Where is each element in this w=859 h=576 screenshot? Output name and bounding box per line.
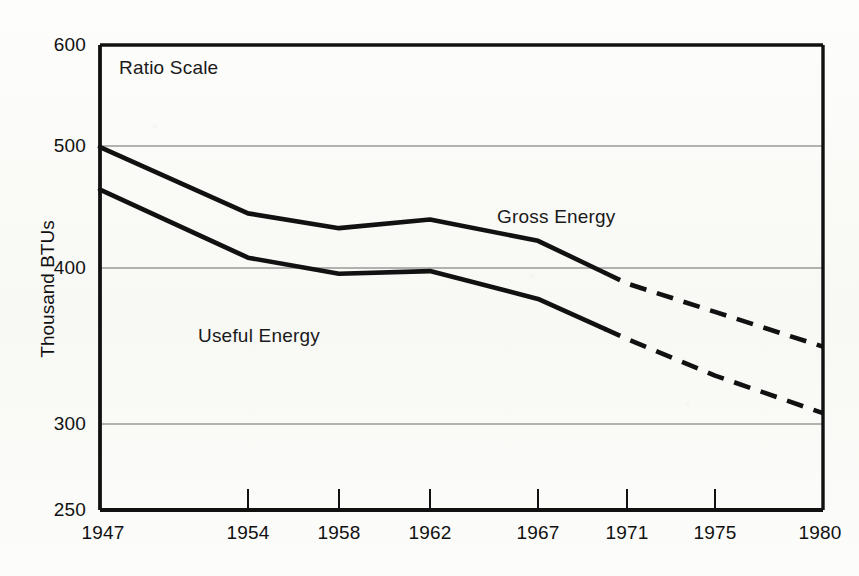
x-axis-ticks — [248, 489, 715, 510]
series-useful-energy — [100, 190, 823, 414]
line-useful-energy-observed — [100, 190, 605, 329]
line-gross-energy-projected — [605, 273, 823, 347]
gridlines — [100, 146, 823, 424]
line-useful-energy-projected — [605, 329, 823, 413]
series-gross-energy — [100, 147, 823, 347]
chart-figure: Thousand BTUs 600 500 400 300 250 1947 1… — [0, 0, 859, 576]
line-gross-energy-observed — [100, 147, 605, 273]
plot-canvas — [0, 0, 859, 576]
